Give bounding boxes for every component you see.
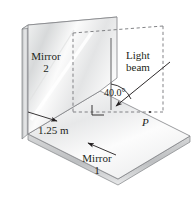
distance-label: 1.25 m [38,125,69,137]
point-p-label: P [142,117,149,129]
mirror2-label-line1: Mirror [22,51,70,63]
mirror1-label-line2: 1 [74,165,120,177]
mirror2-label-line2: 2 [22,63,70,75]
optics-figure: Mirror 2 Light beam 40.0° 1.25 m Mirror … [0,0,196,197]
point-p-marker [149,111,151,113]
mirror1-label-line1: Mirror [74,153,120,165]
light-beam-label-line1: Light [118,50,158,62]
light-beam-label: Light beam [118,50,158,73]
mirror2-label: Mirror 2 [22,51,70,74]
mirror2-thickness-left [22,25,28,139]
angle-label: 40.0° [104,88,126,99]
mirror1-label: Mirror 1 [74,153,120,176]
light-beam-label-line2: beam [118,62,158,74]
